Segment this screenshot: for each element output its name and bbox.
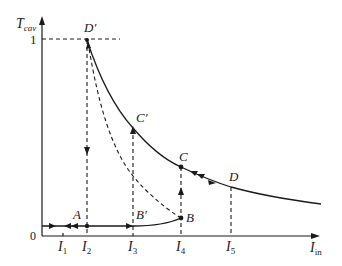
arrow-down-icon [84, 147, 90, 155]
x-tick-label-i5: I5 [225, 239, 236, 256]
point-c [179, 165, 184, 170]
upper-branch-curve [87, 40, 321, 204]
point-i2-lower [85, 224, 89, 228]
x-tick-label-i1: I1 [57, 239, 67, 256]
label-c: C [179, 149, 188, 164]
origin-label: 0 [30, 229, 36, 243]
x-axis-arrow-icon [311, 233, 320, 239]
y-axis-arrow-icon [39, 16, 45, 25]
arrow-up-icon [178, 187, 184, 195]
x-tick-label-i3: I3 [127, 239, 138, 256]
y-tick-one: 1 [30, 32, 37, 47]
x-tick-label-i4: I4 [175, 239, 186, 256]
bistability-diagram: Tcav 1 0 Iin I1 I2 I3 I4 I5 A B B′ C C′ [0, 0, 342, 266]
label-b-prime: B′ [136, 207, 147, 222]
label-a: A [72, 207, 81, 222]
arrow-left-icon [71, 223, 78, 229]
x-tick-label-i2: I2 [81, 239, 91, 256]
y-axis-label: Tcav [16, 16, 36, 33]
label-b: B [186, 210, 194, 225]
arrow-left-icon [64, 223, 71, 229]
label-c-prime: C′ [136, 110, 148, 125]
lower-branch-curve [42, 218, 181, 226]
label-d-prime: D′ [83, 20, 96, 35]
label-d: D [228, 169, 239, 184]
point-b [179, 216, 184, 221]
x-axis-label: Iin [309, 240, 322, 257]
arrow-right-icon [126, 223, 133, 229]
point-d-prime [85, 38, 89, 42]
arrow-right-icon [49, 223, 56, 229]
